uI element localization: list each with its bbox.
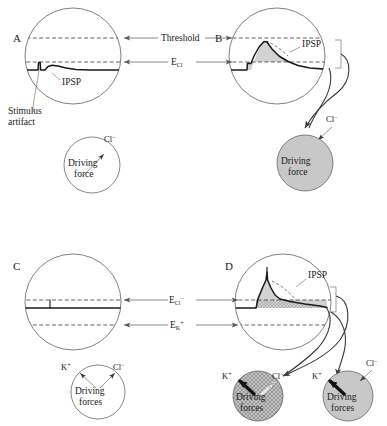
panel-c: C K+ Cl− Driving forces [13, 254, 128, 419]
panel-d-cl-label-right: Cl− [366, 358, 378, 368]
panel-a-driving-force: Cl− Driving force [64, 134, 120, 193]
panel-b-driving-force: Driving force [277, 135, 333, 191]
panel-b-ipsp-label: IPSP [302, 39, 321, 49]
panel-b-ipsp-leader [290, 47, 300, 52]
panel-d-driving-forces-right: K+ Cl− Driving forces [312, 358, 378, 421]
panel-a-ipsp-label: IPSP [62, 77, 81, 87]
panel-a-force-line1: Driving [68, 158, 98, 168]
ecl-label-top: ECl [171, 57, 183, 68]
panel-c-driving-forces: K+ Cl− Driving forces [61, 362, 125, 419]
panel-a-cell-circle [25, 8, 121, 104]
panel-b-amplitude-bracket [335, 40, 341, 68]
panel-d: D IPSP K+ Cl− Driving forces [222, 254, 378, 421]
panel-d-k-label-right: K+ [312, 371, 322, 381]
panel-d-ipsp-leader [296, 279, 306, 287]
panel-b: B IPSP Cl− Driving force [215, 8, 349, 191]
neuroscience-figure: A IPSP Stimulus artifact Cl− Driving for… [0, 0, 387, 426]
panel-d-force-left-line1: Driving [236, 392, 266, 402]
panel-c-letter: C [13, 260, 20, 272]
panel-a-stimulus-artifact-line2: artifact [8, 117, 35, 127]
panel-a-ipsp-leader [52, 73, 60, 80]
panel-c-cell-circle [25, 254, 121, 350]
panel-d-cl-label-left: Cl− [272, 371, 284, 381]
panel-c-k-label: K+ [61, 362, 71, 372]
panel-a-cl-label: Cl− [104, 134, 116, 144]
threshold-label: Threshold [161, 33, 200, 43]
figure-root: A IPSP Stimulus artifact Cl− Driving for… [0, 0, 387, 426]
panel-d-curve-secondary [283, 307, 330, 376]
panel-d-ipsp-label: IPSP [308, 270, 327, 280]
center-labels-bottom: ECl− EK+ [124, 295, 238, 331]
panel-b-ipsp-shaded-area [243, 41, 292, 70]
panel-a: A IPSP Stimulus artifact Cl− Driving for… [8, 8, 128, 193]
panel-a-membrane-trace [22, 63, 126, 71]
panel-a-clipped-contents [20, 38, 128, 70]
panel-d-k-label-left: K+ [222, 371, 232, 381]
panel-d-driving-forces-left: K+ Cl− Driving forces [222, 371, 284, 421]
panel-b-force-line2: force [288, 167, 308, 177]
panel-d-curve-to-force-right [331, 312, 345, 376]
panel-b-force-line1: Driving [281, 156, 311, 166]
panel-b-cl-label: Cl− [326, 114, 338, 124]
panel-a-letter: A [13, 32, 21, 44]
panel-c-cl-label: Cl− [113, 362, 125, 372]
panel-d-force-right-line1: Driving [327, 392, 357, 402]
panel-c-force-line1: Driving [75, 386, 105, 396]
panel-c-force-line2: forces [79, 397, 103, 407]
center-labels-top: Threshold ECl [124, 33, 232, 68]
panel-b-cl-arrow [318, 127, 332, 140]
ecl-label-bottom: ECl− [169, 295, 184, 306]
panel-d-force-left-line2: forces [240, 403, 264, 413]
panel-c-clipped-contents [20, 300, 128, 326]
ek-label: EK+ [170, 320, 184, 331]
panel-a-stimulus-artifact-line1: Stimulus [8, 106, 42, 116]
panel-d-letter: D [225, 260, 233, 272]
panel-d-force-right-line2: forces [331, 403, 355, 413]
panel-a-force-line2: force [74, 169, 94, 179]
